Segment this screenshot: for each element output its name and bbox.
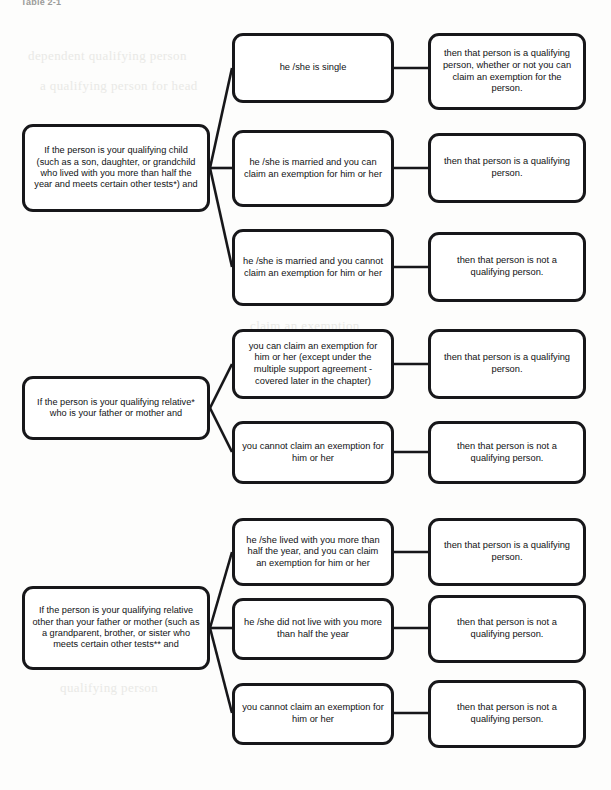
sub-condition-text: you cannot claim an exemption for him or…: [242, 441, 384, 464]
scan-ghost-text: qualifying person: [60, 680, 158, 696]
result-text: then that person is not a qualifying per…: [438, 617, 576, 640]
sub-condition-text: he /she is married and you can claim an …: [242, 157, 384, 180]
result-box-parent-cannot-claim: then that person is not a qualifying per…: [428, 421, 586, 484]
result-text: then that person is not a qualifying per…: [438, 255, 576, 278]
sub-condition-box-other-lived-and-claim: he /she lived with you more than half th…: [232, 518, 394, 586]
sub-condition-box-other-did-not-live: he /she did not live with you more than …: [232, 598, 394, 660]
page-title: Table 2-1: [21, 0, 61, 7]
condition-text: If the person is your qualifying relativ…: [32, 397, 200, 420]
result-text: then that person is a qualifying person.: [438, 156, 576, 179]
result-box-child-married-can-claim: then that person is a qualifying person.: [428, 133, 586, 203]
sub-condition-text: you cannot claim an exemption for him or…: [242, 702, 384, 725]
result-box-child-single: then that person is a qualifying person,…: [428, 33, 586, 110]
sub-condition-box-child-married-cannot-claim: he /she is married and you cannot claim …: [232, 229, 394, 306]
condition-box-qualifying-relative-other: If the person is your qualifying relativ…: [22, 586, 210, 670]
sub-condition-text: he /she is married and you cannot claim …: [242, 256, 384, 279]
sub-condition-text: he /she is single: [280, 62, 347, 74]
result-text: then that person is a qualifying person.: [438, 352, 576, 375]
condition-text: If the person is your qualifying child (…: [32, 145, 200, 191]
document-page: Table 2-1 dependent qualifying person a …: [0, 0, 611, 790]
result-text: then that person is a qualifying person,…: [438, 48, 576, 94]
result-text: then that person is not a qualifying per…: [438, 441, 576, 464]
sub-condition-box-other-cannot-claim: you cannot claim an exemption for him or…: [232, 683, 394, 745]
condition-box-qualifying-child: If the person is your qualifying child (…: [22, 124, 210, 212]
result-text: then that person is a qualifying person.: [438, 540, 576, 563]
sub-condition-text: he /she lived with you more than half th…: [242, 535, 384, 570]
result-box-other-lived-and-claim: then that person is a qualifying person.: [428, 518, 586, 586]
scan-ghost-text: a qualifying person for head: [40, 78, 198, 94]
sub-condition-box-child-single: he /she is single: [232, 33, 394, 103]
scan-ghost-text: dependent qualifying person: [28, 48, 187, 64]
sub-condition-box-parent-can-claim: you can claim an exemption for him or he…: [232, 329, 394, 399]
result-box-child-married-cannot-claim: then that person is not a qualifying per…: [428, 232, 586, 302]
result-box-other-cannot-claim: then that person is not a qualifying per…: [428, 680, 586, 748]
result-box-other-did-not-live: then that person is not a qualifying per…: [428, 595, 586, 663]
sub-condition-text: he /she did not live with you more than …: [242, 617, 384, 640]
condition-box-qualifying-relative-parent: If the person is your qualifying relativ…: [22, 376, 210, 440]
result-text: then that person is not a qualifying per…: [438, 702, 576, 725]
sub-condition-box-child-married-can-claim: he /she is married and you can claim an …: [232, 130, 394, 207]
condition-text: If the person is your qualifying relativ…: [32, 605, 200, 651]
result-box-parent-can-claim: then that person is a qualifying person.: [428, 329, 586, 399]
sub-condition-box-parent-cannot-claim: you cannot claim an exemption for him or…: [232, 421, 394, 484]
sub-condition-text: you can claim an exemption for him or he…: [242, 341, 384, 387]
